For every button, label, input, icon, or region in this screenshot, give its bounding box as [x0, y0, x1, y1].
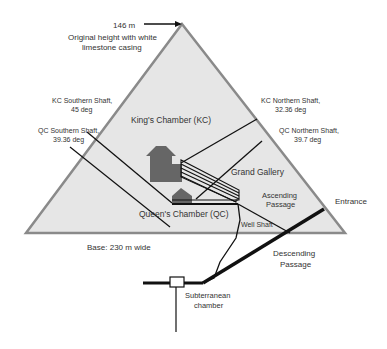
- kc-northern-label-2: 32.36 deg: [275, 106, 306, 114]
- kings-chamber-label: King's Chamber (KC): [131, 115, 211, 125]
- subterranean-label-2: chamber: [194, 301, 224, 310]
- well-shaft-label: Well Shaft: [241, 221, 273, 228]
- ascending-label-1: Ascending: [262, 191, 297, 200]
- height-value-label: 146 m: [113, 21, 136, 30]
- ascending-label-2: Passage: [266, 200, 295, 209]
- descending-label-2: Passage: [280, 260, 312, 269]
- kc-southern-label-1: KC Southern Shaft,: [52, 97, 112, 104]
- base-label: Base: 230 m wide: [87, 243, 151, 252]
- kc-northern-label-1: KC Northern Shaft,: [261, 97, 320, 104]
- grand-gallery-label: Grand Gallery: [231, 167, 285, 177]
- qc-southern-label-2: 39.36 deg: [53, 136, 84, 144]
- entrance-label: Entrance: [335, 197, 368, 206]
- height-note-label-2: limestone casing: [82, 43, 142, 52]
- kc-southern-label-2: 45 deg: [71, 106, 93, 114]
- subterranean-label-1: Subterranean: [185, 291, 230, 300]
- height-note-label-1: Original height with white: [68, 33, 157, 42]
- pyramid-diagram: 146 m Original height with white limesto…: [0, 0, 387, 349]
- qc-northern-label-2: 39.7 deg: [294, 136, 321, 144]
- subterranean-chamber: [170, 277, 184, 287]
- qc-northern-label-1: QC Northern Shaft,: [279, 127, 339, 135]
- qc-southern-label-1: QC Southern Shaft,: [38, 127, 99, 135]
- queens-chamber-label: Queen's Chamber (QC): [139, 209, 229, 219]
- descending-label-1: Descending: [273, 249, 315, 258]
